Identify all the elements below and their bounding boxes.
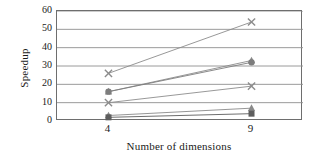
y-tick-label: 50 <box>28 23 52 33</box>
data-point-square <box>249 111 255 117</box>
data-point-circle <box>248 59 254 65</box>
x-axis-title: Number of dimensions <box>56 140 302 153</box>
y-tick-label: 10 <box>28 97 52 107</box>
y-tick-label: 60 <box>28 5 52 15</box>
y-tick-label: 0 <box>28 115 52 125</box>
data-point-cross <box>248 18 255 25</box>
series-layer <box>105 18 255 120</box>
y-tick-label: 20 <box>28 78 52 88</box>
plot-canvas <box>57 11 303 121</box>
x-axis-tick-labels: 49 <box>56 122 302 136</box>
series-line <box>108 62 251 91</box>
series-series-5 <box>105 104 255 118</box>
x-tick-label: 9 <box>231 122 271 134</box>
y-axis-tick-labels: 0102030405060 <box>28 10 52 120</box>
y-tick-label: 40 <box>28 42 52 52</box>
data-point-square <box>105 114 111 120</box>
data-point-cross <box>105 70 112 77</box>
data-point-circle <box>105 88 111 94</box>
y-tick-label: 30 <box>28 60 52 70</box>
chart-figure: Speedup 0102030405060 49 Number of dimen… <box>0 0 315 168</box>
plot-area <box>56 10 302 120</box>
data-point-triangle <box>248 104 255 111</box>
gridlines <box>57 11 303 103</box>
series-line <box>108 86 251 103</box>
x-tick-label: 4 <box>87 122 127 134</box>
